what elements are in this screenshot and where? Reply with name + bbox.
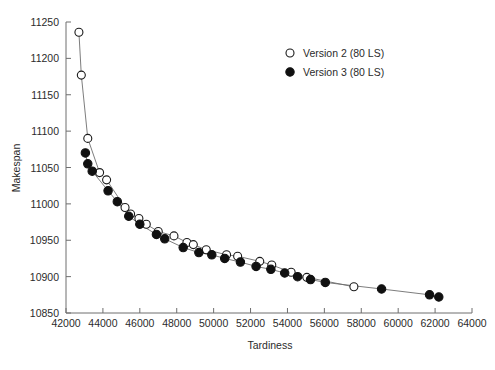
data-point-series-2	[136, 220, 144, 228]
x-tick-label: 56000	[310, 317, 339, 329]
data-point-series-1	[77, 71, 85, 79]
x-tick-label: 64000	[457, 317, 486, 329]
data-point-series-2	[161, 235, 169, 243]
chart-canvas: 4200044000460004800050000520005400056000…	[0, 0, 495, 370]
chart-figure: 4200044000460004800050000520005400056000…	[0, 0, 495, 370]
x-tick-label: 52000	[236, 317, 265, 329]
legend-marker-1	[286, 49, 294, 57]
x-tick-label: 50000	[199, 317, 228, 329]
y-tick-label: 11150	[31, 89, 59, 101]
data-point-series-1	[96, 169, 104, 177]
y-tick-label: 11100	[31, 125, 59, 137]
data-point-series-2	[81, 149, 89, 157]
x-axis-ticks: 4200044000460004800050000520005400056000…	[51, 308, 486, 329]
data-point-series-2	[125, 212, 133, 220]
y-tick-label: 11200	[31, 52, 60, 64]
x-tick-label: 44000	[88, 317, 117, 329]
legend-marker-2	[286, 68, 294, 76]
data-point-series-1	[103, 176, 111, 184]
data-point-series-2	[88, 167, 96, 175]
x-axis-title: Tardiness	[248, 339, 293, 351]
data-point-series-2	[306, 275, 314, 283]
data-point-series-2	[377, 285, 385, 293]
data-point-series-2	[152, 230, 160, 238]
y-tick-label: 10950	[30, 234, 59, 246]
data-point-series-1	[75, 28, 83, 36]
data-point-series-2	[435, 293, 443, 301]
data-point-series-2	[195, 248, 203, 256]
data-point-series-2	[221, 254, 229, 262]
y-tick-label: 11000	[31, 198, 60, 210]
data-point-series-2	[104, 187, 112, 195]
legend-label-1: Version 2 (80 LS)	[303, 47, 384, 59]
x-tick-label: 48000	[162, 317, 191, 329]
data-point-series-2	[293, 272, 301, 280]
data-point-series-2	[252, 262, 260, 270]
data-point-series-2	[113, 197, 121, 205]
chart-legend: Version 2 (80 LS)Version 3 (80 LS)	[286, 47, 384, 78]
data-point-series-2	[179, 243, 187, 251]
data-point-series-1	[189, 241, 197, 249]
data-point-series-2	[267, 265, 275, 273]
x-tick-label: 54000	[273, 317, 302, 329]
x-tick-label: 60000	[384, 317, 413, 329]
y-tick-label: 11250	[31, 16, 60, 28]
series-markers	[75, 28, 443, 301]
data-point-series-1	[170, 232, 178, 240]
x-tick-label: 58000	[347, 317, 376, 329]
data-point-series-2	[236, 258, 244, 266]
data-point-series-2	[280, 269, 288, 277]
data-point-series-2	[321, 278, 329, 286]
x-tick-label: 62000	[420, 317, 449, 329]
y-axis-ticks: 1085010900109501100011050111001115011200…	[30, 16, 71, 319]
y-tick-label: 11050	[31, 162, 60, 174]
legend-label-2: Version 3 (80 LS)	[303, 66, 384, 78]
y-axis-title: Makespan	[10, 144, 22, 193]
y-tick-label: 10900	[30, 271, 59, 283]
data-point-series-1	[350, 283, 358, 291]
data-point-series-1	[84, 134, 92, 142]
x-tick-label: 46000	[125, 317, 154, 329]
y-tick-label: 10850	[30, 307, 59, 319]
data-point-series-2	[208, 251, 216, 259]
data-point-series-2	[425, 291, 433, 299]
data-point-series-1	[121, 204, 129, 212]
